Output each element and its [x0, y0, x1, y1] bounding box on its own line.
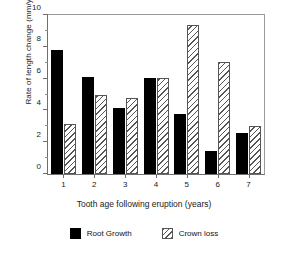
bar-chart-figure: Rate of length change (mm/year) 02468101…	[0, 0, 288, 254]
x-axis-tick-label: 2	[92, 181, 96, 189]
bar-root-growth-7	[236, 133, 248, 174]
x-axis-tick-label: 5	[185, 181, 189, 189]
x-axis-tick-label: 3	[123, 181, 127, 189]
bar-crown-loss-5	[187, 25, 199, 174]
y-axis-tick	[43, 46, 48, 47]
y-axis-tick-label: 6	[37, 67, 41, 75]
y-axis-tick	[43, 141, 48, 142]
y-axis-tick-label: 10	[32, 4, 41, 12]
x-axis-tick	[94, 174, 95, 178]
legend-item-root-growth: Root Growth	[70, 228, 132, 239]
bar-crown-loss-1	[64, 124, 76, 174]
bar-root-growth-4	[144, 78, 156, 174]
x-axis-tick-label: 4	[154, 181, 158, 189]
bar-root-growth-5	[174, 114, 186, 174]
y-axis-tick	[43, 14, 48, 15]
x-axis-tick	[156, 174, 157, 178]
x-axis-tick-label: 6	[215, 181, 219, 189]
bar-root-growth-2	[82, 77, 94, 174]
y-axis-minor-tick	[45, 94, 48, 95]
bar-crown-loss-4	[157, 78, 169, 174]
bar-crown-loss-3	[126, 98, 138, 174]
y-axis-tick-label: 8	[37, 35, 41, 43]
bar-root-growth-6	[205, 151, 217, 174]
x-axis-tick-label: 7	[246, 181, 250, 189]
y-axis-minor-tick	[45, 157, 48, 158]
plot-area: 02468101234567	[47, 14, 265, 175]
x-axis-title: Tooth age following eruption (years)	[0, 199, 288, 209]
bar-root-growth-1	[51, 50, 63, 174]
y-axis-minor-tick	[45, 62, 48, 63]
legend-item-crown-loss: Crown loss	[162, 228, 219, 239]
legend-label-root-growth: Root Growth	[87, 229, 132, 238]
bar-crown-loss-6	[218, 62, 230, 174]
legend-swatch-crown-loss-icon	[162, 228, 173, 239]
y-axis-tick	[43, 173, 48, 174]
bar-crown-loss-2	[95, 95, 107, 175]
x-axis-tick	[249, 174, 250, 178]
y-axis-tick	[43, 109, 48, 110]
x-axis-tick	[218, 174, 219, 178]
y-axis-tick-label: 0	[37, 163, 41, 171]
y-axis-minor-tick	[45, 30, 48, 31]
y-axis-minor-tick	[45, 125, 48, 126]
y-axis-tick-label: 2	[37, 131, 41, 139]
y-axis-tick-label: 4	[37, 99, 41, 107]
x-axis-tick	[125, 174, 126, 178]
bar-root-growth-3	[113, 108, 125, 174]
bar-crown-loss-7	[249, 126, 261, 174]
chart-legend: Root Growth Crown loss	[0, 228, 288, 239]
y-axis-title: Rate of length change (mm/year)	[24, 0, 33, 125]
x-axis-tick	[63, 174, 64, 178]
x-axis-tick	[187, 174, 188, 178]
legend-label-crown-loss: Crown loss	[179, 229, 219, 238]
legend-swatch-root-growth-icon	[70, 228, 81, 239]
x-axis-tick-label: 1	[61, 181, 65, 189]
y-axis-tick	[43, 78, 48, 79]
